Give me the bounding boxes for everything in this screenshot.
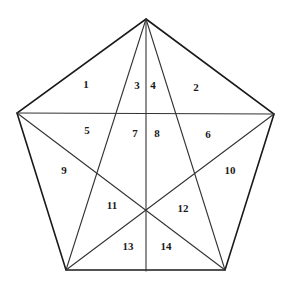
region-label-10: 10	[225, 165, 236, 176]
region-label-4: 4	[150, 80, 156, 91]
diagonal-top-to-bottom-right	[146, 19, 225, 270]
region-label-11: 11	[107, 200, 117, 211]
pentagon-figure	[0, 0, 288, 288]
region-label-9: 9	[61, 165, 67, 176]
region-label-13: 13	[123, 241, 134, 252]
diagonal-left-to-bottom-right	[17, 113, 225, 270]
region-label-2: 2	[193, 82, 199, 93]
region-label-6: 6	[205, 129, 211, 140]
region-label-5: 5	[84, 125, 90, 136]
region-label-3: 3	[134, 80, 140, 91]
diagonal-top-to-bottom-left	[66, 19, 146, 270]
region-label-1: 1	[83, 79, 89, 90]
pentagon-diagram: 1234567891011121314	[0, 0, 288, 288]
region-label-14: 14	[161, 241, 172, 252]
region-label-12: 12	[178, 203, 189, 214]
region-label-8: 8	[154, 128, 160, 139]
region-label-7: 7	[132, 128, 138, 139]
